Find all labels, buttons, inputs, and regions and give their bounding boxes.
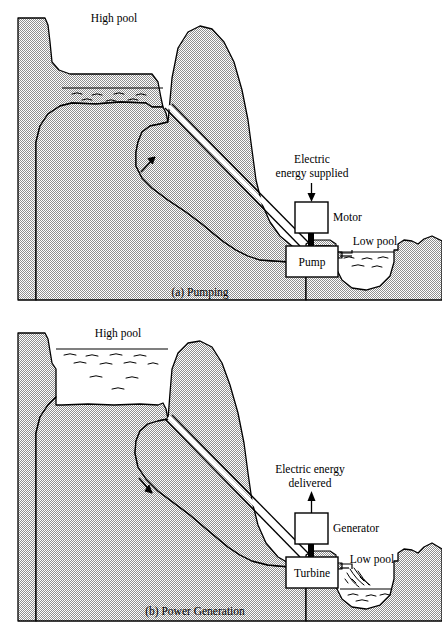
electric-energy-label-line2-a: energy supplied (276, 167, 349, 180)
high-pool-ripples-b (64, 354, 158, 389)
terrain-ground-mass-b (18, 333, 442, 621)
caption-b: (b) Power Generation (145, 605, 245, 618)
motor-pump-shaft-a (308, 233, 314, 247)
low-pool-label-a: Low pool (353, 235, 397, 248)
low-pool-ripples-a (344, 257, 388, 267)
pump-label-a: Pump (299, 256, 326, 269)
electric-energy-label-line1-a: Electric (294, 153, 330, 165)
motor-box-a[interactable] (295, 202, 328, 233)
low-pool-a (336, 252, 394, 267)
low-pool-label-b: Low pool (350, 553, 394, 566)
generator-turbine-shaft-b (308, 544, 314, 558)
high-pool-label-b: High pool (95, 327, 141, 340)
low-pool-ripples-b (348, 594, 390, 601)
electric-energy-label-line1-b: Electric energy (275, 463, 345, 476)
generator-label-b: Generator (333, 522, 379, 534)
low-pool-b (340, 589, 392, 601)
figure-panel-b-power-generation: Generator Turbine High pool Low pool Ele… (0, 321, 442, 642)
caption-a: (a) Pumping (171, 286, 228, 299)
high-pool-b (56, 349, 168, 389)
electric-energy-arrow-b (308, 491, 316, 513)
turbine-label-b: Turbine (294, 567, 330, 579)
generator-box-b[interactable] (295, 513, 328, 544)
figure-panel-a-pumping: Motor Pump High pool Low pool Electric e… (0, 0, 442, 321)
high-pool-label-a: High pool (91, 12, 137, 25)
turbine-discharge-jet-b (340, 564, 370, 587)
motor-label-a: Motor (333, 211, 362, 223)
electric-energy-label-line2-b: delivered (289, 477, 332, 489)
electric-energy-arrow-a (308, 183, 316, 202)
